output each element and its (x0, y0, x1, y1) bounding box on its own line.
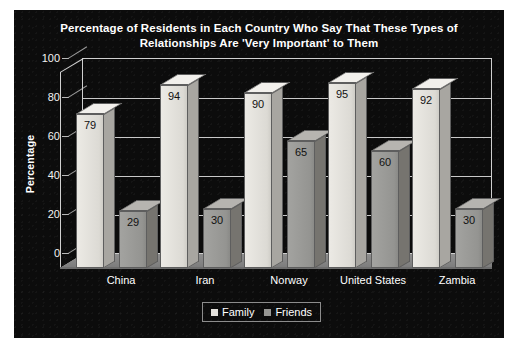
bar-value-label: 30 (456, 215, 482, 226)
bar-side-face (104, 107, 115, 268)
bar-front-face: 65 (287, 141, 315, 268)
legend-item-family[interactable]: Family (211, 306, 254, 318)
bar-family-united-states[interactable]: 95 (328, 83, 356, 268)
bar-front-face: 94 (160, 85, 188, 268)
y-tick-label: 20 (30, 209, 60, 220)
bar-side-face (147, 204, 158, 268)
bar-family-china[interactable]: 79 (76, 114, 104, 268)
bar-value-label: 79 (77, 120, 103, 131)
bar-side-face (399, 144, 410, 268)
bar-friends-iran[interactable]: 30 (203, 209, 231, 268)
x-tick-label-norway: Norway (244, 274, 334, 286)
bar-side-face (231, 202, 242, 268)
bar-front-face: 92 (412, 89, 440, 268)
bar-value-label: 65 (288, 147, 314, 158)
plot-area: 79 29 94 30 (60, 58, 492, 268)
legend-label: Friends (275, 306, 312, 318)
bar-family-iran[interactable]: 94 (160, 85, 188, 268)
y-tick-label: 80 (30, 92, 60, 103)
bar-friends-norway[interactable]: 65 (287, 141, 315, 268)
chart-title-line-1: Percentage of Residents in Each Country … (42, 21, 476, 36)
y-axis-tick-labels: 100 80 60 40 20 0 (22, 10, 60, 338)
bar-side-face (483, 202, 494, 268)
chart-title: Percentage of Residents in Each Country … (42, 21, 476, 51)
bar-front-face: 30 (455, 209, 483, 268)
x-tick-label-united-states: United States (328, 274, 418, 286)
y-tick-label: 0 (30, 248, 60, 259)
bar-value-label: 29 (120, 217, 146, 228)
bar-value-label: 90 (245, 99, 271, 110)
bar-side-face (315, 134, 326, 268)
y-tick-label: 40 (30, 170, 60, 181)
bar-family-zambia[interactable]: 92 (412, 89, 440, 268)
legend-swatch-icon (211, 309, 218, 316)
bar-value-label: 30 (204, 215, 230, 226)
bar-friends-zambia[interactable]: 30 (455, 209, 483, 268)
bar-value-label: 95 (329, 89, 355, 100)
bar-front-face: 90 (244, 93, 272, 268)
chart-legend: Family Friends (202, 302, 321, 322)
legend-swatch-icon (264, 309, 271, 316)
legend-item-friends[interactable]: Friends (264, 306, 312, 318)
x-tick-label-iran: Iran (160, 274, 250, 286)
chart-title-line-2: Relationships Are 'Very Important' to Th… (42, 36, 476, 51)
bar-side-face (188, 78, 199, 268)
y-tick-label: 100 (30, 53, 60, 64)
bar-family-norway[interactable]: 90 (244, 93, 272, 268)
bar-side-face (440, 82, 451, 268)
bar-friends-united-states[interactable]: 60 (371, 151, 399, 268)
chart-figure: Percentage of Residents in Each Country … (14, 10, 504, 338)
bar-front-face: 60 (371, 151, 399, 268)
bar-front-face: 79 (76, 114, 104, 268)
bar-value-label: 60 (372, 157, 398, 168)
bar-value-label: 94 (161, 91, 187, 102)
x-tick-label-zambia: Zambia (412, 274, 502, 286)
bar-side-face (356, 76, 367, 268)
bar-value-label: 92 (413, 95, 439, 106)
y-tick-label: 60 (30, 131, 60, 142)
x-tick-label-china: China (76, 274, 166, 286)
bar-side-face (272, 86, 283, 268)
bar-front-face: 29 (119, 211, 147, 268)
bar-front-face: 95 (328, 83, 356, 268)
bar-front-face: 30 (203, 209, 231, 268)
bar-friends-china[interactable]: 29 (119, 211, 147, 268)
legend-label: Family (222, 306, 254, 318)
